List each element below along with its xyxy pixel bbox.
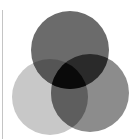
venn-diagram — [0, 0, 138, 139]
